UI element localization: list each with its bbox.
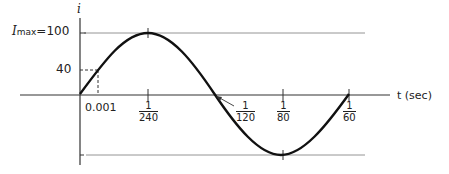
x-tick-1-60: 160 bbox=[343, 100, 356, 123]
sine-curve bbox=[80, 33, 349, 155]
imax-value: =100 bbox=[36, 24, 69, 38]
x-tick-1-120: 1120 bbox=[236, 100, 255, 123]
x-tick-1-80: 180 bbox=[277, 100, 290, 123]
x-tick-0001: 0.001 bbox=[85, 101, 117, 114]
imax-label: Imax=100 bbox=[12, 24, 69, 38]
y-tick-40: 40 bbox=[56, 62, 71, 76]
x-tick-1-240: 1240 bbox=[139, 100, 158, 123]
imax-subscript: max bbox=[17, 27, 37, 37]
x-axis-label: t (sec) bbox=[397, 89, 432, 102]
y-axis-label: i bbox=[77, 2, 81, 16]
